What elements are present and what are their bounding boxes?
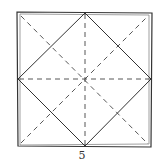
crease-lines [19,14,150,145]
crease-diagonal-tl-br [21,16,148,144]
step-number-label: 5 [0,150,164,162]
crease-diagonal-bl-tr [21,16,148,143]
origami-diagram [0,0,164,164]
